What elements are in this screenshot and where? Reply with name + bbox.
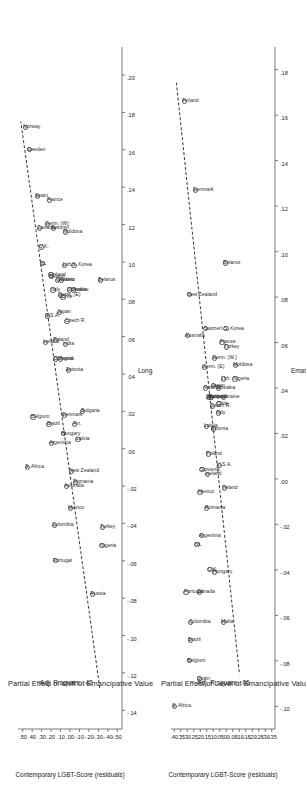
point-label: Slovakia (216, 385, 235, 390)
point-label: S. Africa (25, 464, 44, 469)
x-tick-label: .10 (127, 262, 135, 268)
x-tick-label: .18 (280, 70, 288, 76)
point-label: U.K. (39, 244, 49, 249)
x-tick-label: .10 (280, 252, 288, 258)
point-label: Belgium (31, 414, 49, 419)
x-tick-label: .12 (127, 225, 135, 231)
x-tick-label: -.04 (127, 523, 137, 529)
point-label: Argentina (49, 440, 71, 445)
point-label: Poland (206, 451, 222, 456)
x-tick-label: -.02 (127, 486, 137, 492)
point-label: Turkey (100, 524, 115, 529)
point-label: Mexico (198, 489, 214, 494)
point-label: Belgium (187, 658, 205, 663)
point-label: Norway (23, 124, 40, 129)
point-label: Belarus (223, 260, 240, 265)
point-label: Portugal (53, 558, 72, 563)
point-label: Nigeria (233, 376, 249, 381)
point-label: Mexico (68, 505, 84, 510)
panel-level-plot-canvas: Partial Effect of Level of Emancipative … (153, 0, 306, 787)
point-label: Japan (57, 309, 71, 314)
point-label: Germ. (W.) (212, 355, 237, 360)
point-label: Yugosl. (58, 356, 75, 361)
x-tick-label: -.06 (280, 615, 290, 621)
point-label: Spain (197, 676, 210, 681)
y-tick-label: -.30 (94, 734, 104, 740)
x-tick-label: .16 (280, 115, 288, 121)
point-label: Finland (182, 98, 199, 103)
x-tick-label: .14 (127, 187, 135, 193)
x-tick-label: .18 (127, 112, 135, 118)
point-label: India (63, 341, 74, 346)
point-label: Malta (221, 619, 233, 624)
y-tick-label: .50 (19, 734, 27, 740)
y-tick-label: .10 (57, 734, 65, 740)
y-tick-label: .00 (66, 734, 74, 740)
point-label: Switzerl. (204, 326, 223, 331)
point-label: S. Korea (72, 262, 92, 267)
x-tick-label: .16 (127, 150, 135, 156)
point-label: New Zealand (69, 468, 99, 473)
x-tick-label: .08 (127, 299, 135, 305)
x-tick-label: .04 (280, 388, 288, 394)
x-tick-label: -.12 (127, 673, 137, 679)
y-tick-label: .30 (38, 734, 46, 740)
point-label: S. Africa (172, 703, 191, 708)
point-label: Colombia (52, 522, 74, 527)
y-tick-label: -.10 (75, 734, 85, 740)
point-label: Hungary (213, 569, 232, 574)
y-tick-label: -.50 (112, 734, 122, 740)
point-label: Romania (73, 479, 93, 484)
point-label: Denmark (193, 187, 214, 192)
panel-shift-of-emancipative-values: Partial Effect of shift of Emancipative … (0, 0, 153, 787)
figure-root: Partial Effect of shift of Emancipative … (0, 0, 307, 787)
y-tick-label: -.35 (267, 734, 277, 740)
point-label: Ukraine (71, 287, 89, 292)
point-label: Ireland (222, 485, 238, 490)
panel-level-of-emancipative-values: Partial Effect of Level of Emancipative … (153, 0, 306, 787)
point-label: U.S.A. (217, 462, 232, 467)
point-label: Ukraine (222, 394, 240, 399)
point-label: Latvia (76, 436, 90, 441)
x-tick-label: .04 (127, 374, 135, 380)
x-tick-label: .02 (280, 433, 288, 439)
point-label: Turkey (224, 344, 239, 349)
point-label: Lith. (221, 376, 231, 381)
x-tick-label: .12 (280, 206, 288, 212)
point-label: Estonia (211, 426, 228, 431)
x-tick-label: -.10 (127, 636, 137, 642)
x-tick-label: .14 (280, 161, 288, 167)
x-tick-label: .00 (280, 479, 288, 485)
point-label: Brazil (47, 421, 60, 426)
y-tick-label: .20 (47, 734, 55, 740)
point-label: Romania (205, 505, 225, 510)
point-label: Moldova (233, 362, 252, 367)
point-label: Chile (217, 401, 229, 406)
point-label: Fin. (73, 421, 82, 426)
y-tick-label: .40 (28, 734, 36, 740)
scatter-point-layer: -.10-.08-.06-.04-.02.00.02.04.06.08.10.1… (153, 0, 306, 787)
point-label: Germ. (E) (202, 364, 224, 369)
x-tick-label: -.08 (280, 661, 290, 667)
point-label: Sweden (27, 147, 45, 152)
x-tick-label: .20 (127, 75, 135, 81)
point-label: Austria (59, 277, 75, 282)
scatter-point-layer: -.14-.12-.10-.08-.06-.04-.02.00.02.04.06… (0, 0, 153, 787)
x-tick-label: .06 (280, 343, 288, 349)
point-label: New Zealand (187, 292, 217, 297)
point-label: Brazil (188, 637, 201, 642)
point-label: Russia (90, 591, 106, 596)
point-label: Moldova (63, 229, 82, 234)
point-label: Iceland (205, 471, 221, 476)
point-label: France (47, 197, 63, 202)
point-label: Italy (216, 410, 225, 415)
point-label: Canada (197, 589, 215, 594)
x-tick-label: -.08 (127, 598, 137, 604)
point-label: Estonia (66, 367, 83, 372)
point-label: Chile (61, 294, 73, 299)
x-tick-label: -.04 (280, 570, 290, 576)
point-label: Nigeria (100, 543, 116, 548)
point-label: Czech R. (65, 318, 86, 323)
x-tick-label: -.14 (127, 710, 137, 716)
x-tick-label: -.06 (127, 561, 137, 567)
